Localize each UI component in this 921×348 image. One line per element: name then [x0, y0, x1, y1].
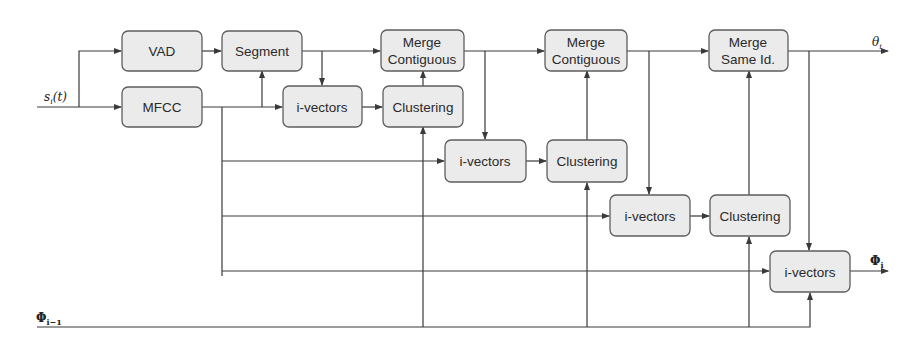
clustering-block-3: Clustering	[710, 195, 790, 236]
svg-text:Contiguous: Contiguous	[552, 52, 621, 67]
theta-output-label: θi	[872, 35, 882, 51]
clustering-block-1: Clustering	[383, 86, 463, 127]
svg-text:MFCC: MFCC	[143, 100, 182, 115]
svg-text:Clustering: Clustering	[720, 209, 781, 224]
svg-text:Merge: Merge	[567, 35, 605, 50]
svg-text:i-vectors: i-vectors	[624, 209, 675, 224]
phi-output-label: Φi	[870, 254, 884, 270]
ivectors-block-1: i-vectors	[283, 86, 362, 127]
merge-contiguous-block-1: Merge Contiguous	[381, 30, 464, 71]
ivectors-block-3: i-vectors	[610, 195, 690, 236]
svg-text:i-vectors: i-vectors	[459, 154, 510, 169]
segment-block: Segment	[222, 31, 302, 71]
ivectors-block-2: i-vectors	[445, 140, 526, 182]
merge-contiguous-block-2: Merge Contiguous	[545, 30, 627, 71]
svg-text:VAD: VAD	[149, 44, 176, 59]
svg-text:Clustering: Clustering	[393, 100, 454, 115]
clustering-block-2: Clustering	[547, 140, 627, 182]
svg-text:Merge: Merge	[729, 35, 767, 50]
svg-text:Clustering: Clustering	[557, 154, 618, 169]
input-signal-label: si(t)	[44, 90, 67, 106]
svg-text:Merge: Merge	[403, 35, 441, 50]
svg-text:i-vectors: i-vectors	[296, 100, 347, 115]
mfcc-block: MFCC	[122, 87, 202, 127]
svg-text:Same Id.: Same Id.	[721, 52, 775, 67]
svg-text:Segment: Segment	[235, 44, 289, 59]
diarization-diagram: si(t) Φi−1 θi Φi VAD MFCC Segment i-vect…	[0, 0, 921, 348]
ivectors-block-4: i-vectors	[770, 251, 850, 292]
svg-text:i-vectors: i-vectors	[784, 265, 835, 280]
prev-model-label: Φi−1	[36, 311, 62, 327]
merge-same-id-block: Merge Same Id.	[709, 30, 788, 71]
vad-block: VAD	[122, 31, 202, 71]
svg-text:Contiguous: Contiguous	[388, 52, 457, 67]
